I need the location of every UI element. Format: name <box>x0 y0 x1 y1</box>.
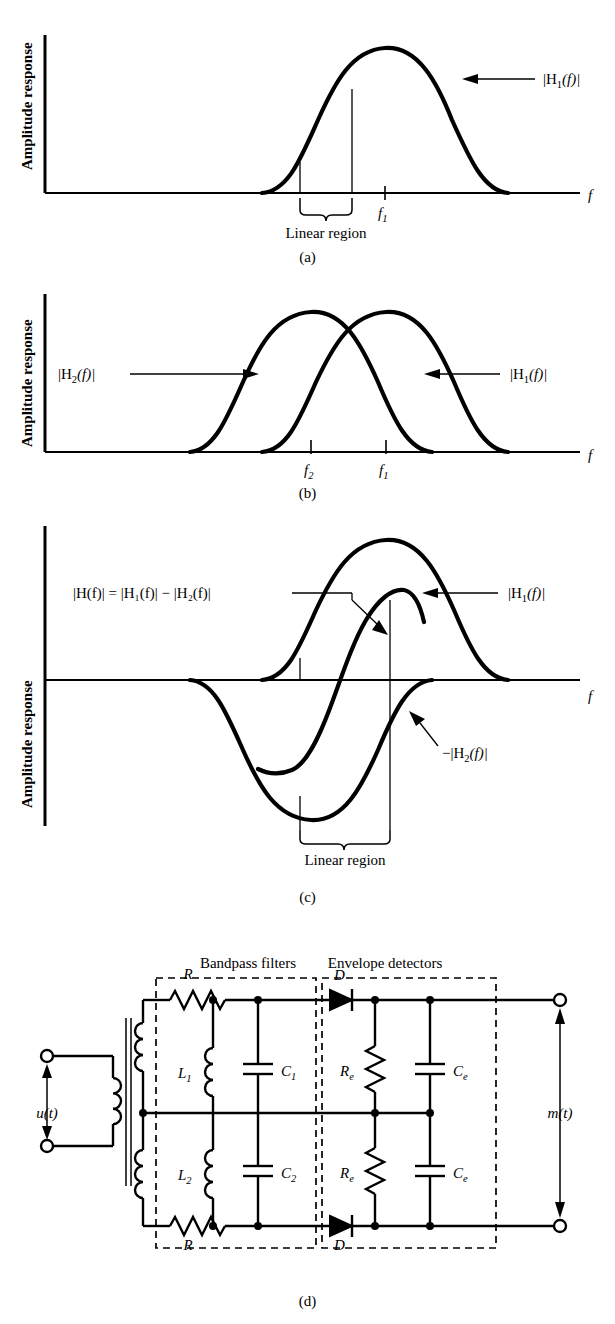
capacitor-ce-bottom-label: Ce <box>453 1165 468 1184</box>
panel-c-xlabel: f <box>588 688 594 704</box>
diode-bottom-label: D <box>333 1237 345 1253</box>
panel-a-xlabel: f <box>588 187 594 203</box>
inductor-l2 <box>205 1150 213 1198</box>
panel-a-tick-label-f1: f1 <box>378 205 387 224</box>
diode-bottom <box>330 1216 352 1236</box>
input-label-ut: u(t) <box>36 1105 58 1122</box>
node-ce-bottom <box>426 1222 434 1230</box>
output-voltage-arrowhead-down <box>555 1202 565 1218</box>
curve-h1 <box>262 312 508 452</box>
panel-d-caption: (d) <box>299 1293 317 1309</box>
panel-b-ylabel: Amplitude response <box>19 319 35 447</box>
node-re-top <box>371 996 379 1004</box>
capacitor-c1-label: C1 <box>281 1063 296 1082</box>
panel-a-ylabel: Amplitude response <box>19 42 35 170</box>
panel-b-arrowhead-left <box>243 369 259 379</box>
output-terminal-top <box>554 994 566 1006</box>
resistor-re-bottom <box>366 1148 384 1194</box>
inductor-l1 <box>205 1048 213 1096</box>
panel-a: Amplitude response f1 Linear region |H1(… <box>0 0 615 250</box>
panel-b-label-h1: |H1(f)| <box>510 366 547 385</box>
panel-a-linear-region-label: Linear region <box>285 225 367 241</box>
panel-b-arrowhead-right <box>424 369 440 379</box>
panel-c-arrowhead-h1 <box>422 588 438 598</box>
transformer-primary-coil <box>113 1078 121 1124</box>
input-terminal-bottom <box>41 1140 53 1152</box>
panel-a-curve-label: |H1(f)| <box>543 71 580 90</box>
curve-h2 <box>190 312 432 452</box>
output-voltage-arrowhead-up <box>555 1008 565 1024</box>
diode-top <box>330 990 352 1010</box>
panel-c-caption: (c) <box>299 889 316 905</box>
input-voltage-arrowhead-up <box>42 1064 52 1078</box>
bandpass-filters-label: Bandpass filters <box>200 955 296 971</box>
output-terminal-bottom <box>554 1220 566 1232</box>
panel-c-leader-h2neg <box>420 723 438 746</box>
panel-c: Amplitude response |H(f)| = |H₁(f)| − |H… <box>0 508 615 868</box>
curve-h1 <box>262 48 508 193</box>
transformer-secondary-bottom-coil <box>135 1150 143 1198</box>
panel-b-caption: (b) <box>299 485 317 501</box>
panel-b-label-h2: |H2(f)| <box>58 366 95 385</box>
panel-b-xlabel: f <box>588 447 594 463</box>
panel-d-circuit: Bandpass filters Envelope detectors u(t)… <box>0 938 615 1298</box>
node-l1-top <box>209 996 217 1004</box>
panel-c-arrowhead-h2neg <box>409 711 425 726</box>
panel-b-tick-label-f2: f2 <box>304 462 314 481</box>
capacitor-c2-label: C2 <box>281 1165 297 1184</box>
panel-c-equation-label: |H(f)| = |H₁(f)| − |H₂(f)| <box>73 585 211 602</box>
panel-c-linear-region-brace <box>300 830 390 850</box>
node-re-bottom <box>371 1222 379 1230</box>
curve-h-difference <box>258 590 424 774</box>
node-c2-bottom <box>254 1222 262 1230</box>
capacitor-ce-top-label: Ce <box>453 1063 468 1082</box>
resistor-re-bottom-label: Re <box>339 1165 354 1184</box>
input-terminal-top <box>41 1050 53 1062</box>
node-ce-top <box>426 996 434 1004</box>
panel-a-annotation-arrowhead <box>462 74 478 84</box>
node-middle-tap <box>139 1109 147 1117</box>
panel-c-caption-wrap: (c) <box>0 888 615 910</box>
panel-c-ylabel: Amplitude response <box>19 680 35 808</box>
panel-c-label-h2neg: −|H2(f)| <box>442 745 488 764</box>
resistor-r-bottom-label: R <box>182 1237 192 1253</box>
resistor-re-top-label: Re <box>339 1063 354 1082</box>
panel-a-linear-region-brace <box>300 198 352 221</box>
curve-h1-positive <box>262 540 508 680</box>
node-c1-top <box>254 996 262 1004</box>
panel-c-label-h1: |H1(f)| <box>508 585 545 604</box>
panel-b: Amplitude response f2 f1 |H2(f)| |H1(f)|… <box>0 272 615 487</box>
inductor-l2-label: L2 <box>177 1167 192 1186</box>
envelope-detectors-label: Envelope detectors <box>328 955 443 971</box>
panel-b-tick-label-f1: f1 <box>379 462 388 481</box>
panel-b-caption-wrap: (b) <box>0 484 615 506</box>
panel-a-caption-wrap: (a) <box>0 248 615 270</box>
inductor-l1-label: L1 <box>177 1065 192 1084</box>
output-label-mt: m(t) <box>548 1105 573 1122</box>
input-voltage-arrowhead-down <box>42 1126 52 1140</box>
resistor-re-top <box>366 1046 384 1092</box>
resistor-r-top-label: R <box>182 966 192 982</box>
panel-a-caption: (a) <box>299 249 316 265</box>
transformer-secondary-top-coil <box>135 1023 143 1071</box>
panel-d-caption-wrap: (d) <box>0 1292 615 1316</box>
node-l2-bottom <box>209 1222 217 1230</box>
diode-top-label: D <box>333 967 345 983</box>
panel-c-linear-region-label: Linear region <box>304 852 386 868</box>
